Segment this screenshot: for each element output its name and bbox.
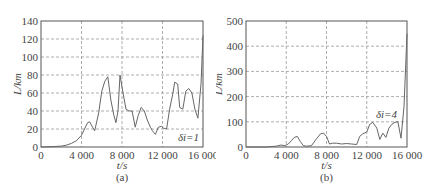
x-tick-label: 4 000 (274, 149, 299, 161)
y-tick-label: 500 (227, 15, 244, 27)
line-chart-b: 010020030040050004 0008 00012 00016 000L… (216, 0, 432, 194)
panel-caption: (b) (320, 171, 333, 184)
annotation-label: δi=4 (376, 108, 398, 120)
y-tick-label: 100 (22, 51, 39, 63)
y-axis-label: L/km (11, 73, 23, 96)
y-tick-label: 300 (227, 65, 244, 77)
y-tick-label: 20 (27, 123, 39, 135)
y-axis-label: L/km (216, 73, 224, 96)
annotation-label: δi=1 (178, 131, 199, 143)
panel-caption: (a) (116, 171, 129, 184)
x-tick-label: 16 000 (392, 149, 423, 161)
grid-lines (246, 21, 407, 147)
line-chart-a: 02040608010012014004 0008 00012 00016 00… (0, 0, 216, 194)
y-tick-label: 80 (27, 69, 39, 81)
y-tick-label: 100 (227, 116, 244, 128)
x-tick-label: 16 000 (188, 149, 216, 161)
y-tick-label: 140 (22, 15, 39, 27)
x-tick-label: 12 000 (147, 149, 178, 161)
chart-panel-b: 010020030040050004 0008 00012 00016 000L… (216, 0, 432, 194)
y-tick-label: 120 (22, 33, 39, 45)
y-tick-label: 400 (227, 40, 244, 52)
y-tick-label: 40 (27, 105, 39, 117)
x-tick-label: 0 (38, 149, 44, 161)
chart-panel-a: 02040608010012014004 0008 00012 00016 00… (0, 0, 216, 194)
x-tick-label: 0 (243, 149, 249, 161)
y-tick-label: 60 (27, 87, 39, 99)
y-tick-label: 200 (227, 91, 244, 103)
x-axis-label: t/s (321, 159, 331, 171)
x-axis-label: t/s (117, 159, 127, 171)
x-tick-label: 12 000 (352, 149, 383, 161)
x-tick-label: 4 000 (69, 149, 94, 161)
data-line (246, 34, 407, 147)
